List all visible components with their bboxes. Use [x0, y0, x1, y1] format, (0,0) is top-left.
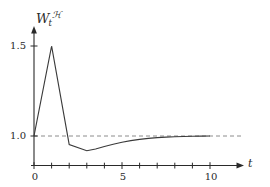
y-axis-label-superscript: ℋ	[52, 9, 61, 20]
y-tick-label-1-0: 1.0	[2, 131, 26, 141]
y-tick-label-1-5: 1.5	[2, 41, 26, 51]
x-tick-label-10: 10	[203, 172, 219, 182]
chart-plot-area	[0, 0, 270, 187]
x-axis-label: t	[248, 158, 252, 169]
data-series-line	[34, 46, 210, 151]
x-tick-label-0: 0	[29, 172, 41, 182]
x-tick-label-5: 5	[117, 172, 129, 182]
horizontal-time-axis	[31, 163, 244, 169]
chart-figure: Wtℋ t 1.5 1.0 0 5 10	[0, 0, 270, 187]
y-axis-label: Wtℋ	[36, 10, 61, 28]
vertical-value-axis	[31, 26, 37, 166]
